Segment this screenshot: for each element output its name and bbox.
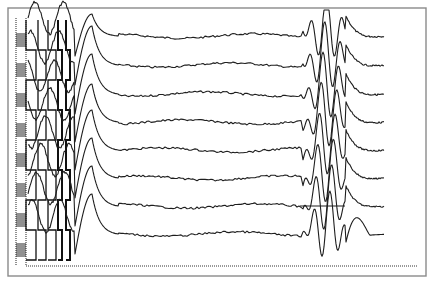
calibration-ladder [16, 18, 26, 266]
step-marker-column [38, 20, 46, 260]
waveform-plot [0, 0, 434, 282]
waveform-trace-1 [28, 1, 384, 56]
step-markers [26, 20, 70, 260]
step-marker-column [58, 20, 62, 260]
traces [28, 1, 384, 256]
step-marker-column [26, 20, 36, 260]
waveform-trace-8 [28, 191, 384, 256]
